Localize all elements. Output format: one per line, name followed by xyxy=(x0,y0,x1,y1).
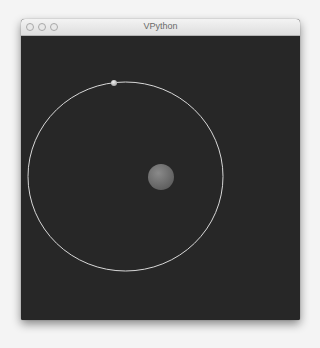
scene-svg xyxy=(21,36,300,320)
window-title: VPython xyxy=(21,21,300,31)
planet-sphere xyxy=(111,80,117,86)
title-bar[interactable]: VPython xyxy=(21,19,300,36)
3d-scene-canvas[interactable] xyxy=(21,36,300,320)
orbit-trail xyxy=(28,82,223,271)
vpython-window: VPython xyxy=(21,19,300,320)
sun-sphere xyxy=(148,164,174,190)
